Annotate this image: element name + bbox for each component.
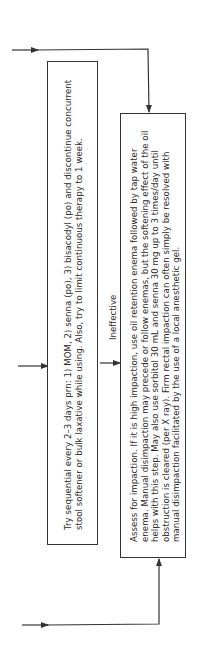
- sequential-laxatives-box: Try sequential every 2–3 days prn: 1) MO…: [47, 61, 98, 545]
- ineffective-label: Ineffective: [108, 295, 118, 340]
- sequential-laxatives-text: Try sequential every 2–3 days prn: 1) MO…: [63, 76, 84, 530]
- bottom-incoming-arrow: [22, 559, 159, 625]
- assess-impaction-box: Assess for impaction. If it is high impa…: [120, 113, 186, 558]
- assess-impaction-text: Assess for impaction. If it is high impa…: [129, 120, 182, 542]
